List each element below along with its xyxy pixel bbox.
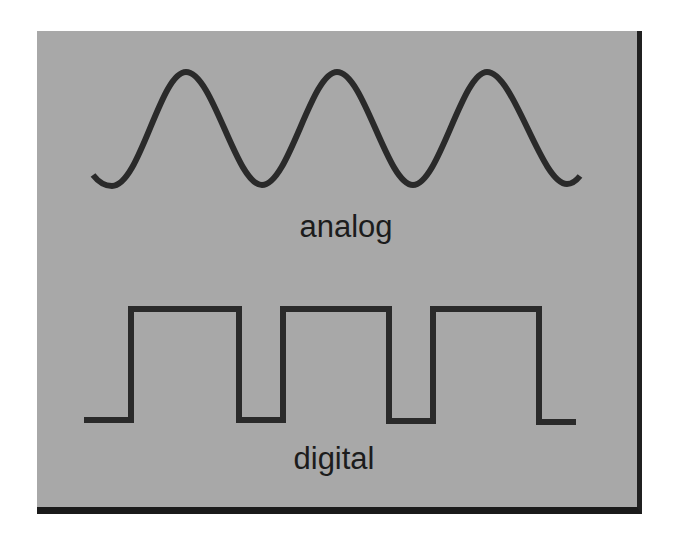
analog-label: analog	[299, 211, 392, 242]
analog-sine-wave	[93, 72, 580, 186]
digital-label: digital	[294, 443, 375, 474]
digital-square-wave	[84, 309, 576, 422]
